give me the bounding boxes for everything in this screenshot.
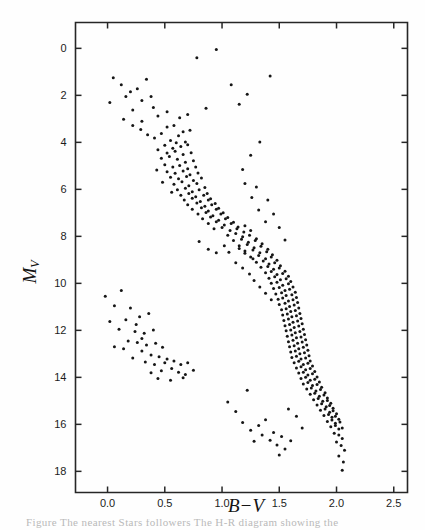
data-point bbox=[172, 124, 175, 127]
data-point bbox=[257, 254, 260, 257]
data-point bbox=[298, 352, 301, 355]
data-point bbox=[301, 322, 304, 325]
data-point bbox=[313, 378, 316, 381]
data-point bbox=[270, 270, 273, 273]
data-point bbox=[295, 314, 298, 317]
data-point bbox=[322, 393, 325, 396]
data-point bbox=[286, 335, 289, 338]
data-point bbox=[343, 449, 346, 452]
data-point bbox=[264, 418, 267, 421]
data-point bbox=[207, 198, 210, 201]
data-point bbox=[177, 177, 180, 180]
data-point bbox=[136, 341, 139, 344]
data-point bbox=[337, 428, 340, 431]
data-point bbox=[230, 222, 233, 225]
data-point bbox=[311, 365, 314, 368]
data-point bbox=[266, 265, 269, 268]
data-point bbox=[272, 213, 275, 216]
data-point bbox=[302, 363, 305, 366]
data-point bbox=[224, 217, 227, 220]
data-point bbox=[287, 340, 290, 343]
data-point bbox=[330, 416, 333, 419]
data-point bbox=[184, 161, 187, 164]
data-point bbox=[332, 409, 335, 412]
data-point bbox=[153, 363, 156, 366]
data-point bbox=[177, 134, 180, 137]
y-tick-label: 18 bbox=[54, 465, 66, 477]
data-point bbox=[192, 159, 195, 162]
data-point bbox=[304, 368, 307, 371]
data-point bbox=[176, 188, 179, 191]
data-point bbox=[198, 188, 201, 191]
data-point bbox=[286, 312, 289, 315]
data-point bbox=[275, 273, 278, 276]
data-point bbox=[226, 401, 229, 404]
data-point bbox=[150, 95, 153, 98]
data-point bbox=[209, 216, 212, 219]
data-point bbox=[259, 245, 262, 248]
data-point bbox=[184, 140, 187, 143]
data-point bbox=[284, 302, 287, 305]
data-point bbox=[251, 257, 254, 260]
data-point bbox=[215, 48, 218, 51]
data-point bbox=[238, 244, 241, 247]
data-point bbox=[297, 347, 300, 350]
data-point bbox=[302, 382, 305, 385]
data-point bbox=[326, 420, 329, 423]
data-point bbox=[179, 363, 182, 366]
data-point bbox=[161, 346, 164, 349]
x-axis-title-text: B−V bbox=[228, 495, 266, 516]
data-point bbox=[289, 439, 292, 442]
data-point bbox=[311, 372, 314, 375]
data-point bbox=[304, 376, 307, 379]
data-point bbox=[197, 213, 200, 216]
data-point bbox=[337, 418, 340, 421]
data-point bbox=[108, 101, 111, 104]
data-point bbox=[198, 240, 201, 243]
data-point bbox=[293, 344, 296, 347]
data-point bbox=[320, 402, 323, 405]
data-point bbox=[259, 266, 262, 269]
data-point bbox=[270, 282, 273, 285]
data-point bbox=[333, 432, 336, 435]
data-point bbox=[194, 166, 197, 169]
data-point bbox=[272, 268, 275, 271]
data-point bbox=[294, 331, 297, 334]
data-point bbox=[341, 469, 344, 472]
data-point bbox=[156, 148, 159, 151]
data-point bbox=[322, 414, 325, 417]
data-point bbox=[281, 272, 284, 275]
data-point bbox=[166, 110, 169, 113]
data-point bbox=[131, 357, 134, 360]
data-point bbox=[328, 404, 331, 407]
data-point bbox=[166, 151, 169, 154]
data-point bbox=[287, 408, 290, 411]
data-point bbox=[264, 220, 267, 223]
data-point bbox=[275, 444, 278, 447]
data-point bbox=[337, 433, 340, 436]
data-point bbox=[140, 99, 143, 102]
data-point bbox=[144, 361, 147, 364]
data-point bbox=[308, 354, 311, 357]
data-point bbox=[192, 369, 195, 372]
data-point bbox=[326, 399, 329, 402]
data-point bbox=[285, 307, 288, 310]
x-tick-label: 2.0 bbox=[329, 497, 344, 509]
data-point bbox=[293, 303, 296, 306]
data-point bbox=[234, 261, 237, 264]
data-point bbox=[234, 410, 237, 413]
data-point bbox=[227, 251, 230, 254]
data-point bbox=[296, 301, 299, 304]
data-point bbox=[302, 346, 305, 349]
data-point bbox=[135, 323, 138, 326]
data-point bbox=[254, 239, 257, 242]
data-point bbox=[207, 222, 210, 225]
data-point bbox=[309, 393, 312, 396]
data-point bbox=[190, 151, 193, 154]
data-point bbox=[319, 388, 322, 391]
data-point bbox=[284, 289, 287, 292]
data-point bbox=[192, 179, 195, 182]
data-point bbox=[264, 271, 267, 274]
data-point bbox=[138, 315, 141, 318]
data-point bbox=[292, 298, 295, 301]
